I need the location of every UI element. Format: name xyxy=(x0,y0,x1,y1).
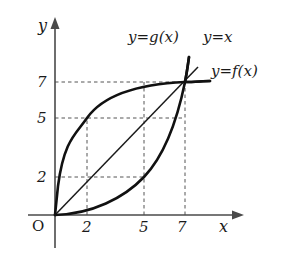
x-tick-2: 2 xyxy=(82,220,92,235)
x-axis-label: x xyxy=(219,219,228,235)
curve-g-upper-branch xyxy=(185,57,189,82)
y-axis-label: y xyxy=(38,18,47,34)
curve-label-f: y=f(x) xyxy=(211,64,258,79)
curve-f-right-branch xyxy=(185,81,210,82)
origin-label: O xyxy=(32,219,44,234)
x-axis-arrowhead xyxy=(232,211,244,220)
y-axis-arrowhead xyxy=(51,17,60,29)
curve-label-g: y=g(x) xyxy=(128,30,179,45)
curve-g xyxy=(55,81,210,215)
x-tick-7: 7 xyxy=(177,220,187,235)
math-figure: y x O 2 5 7 2 5 7 y=g(x) y=x y=f(x) xyxy=(0,0,291,258)
y-tick-7: 7 xyxy=(37,75,47,90)
y-tick-2: 2 xyxy=(37,170,47,185)
x-tick-5: 5 xyxy=(139,220,149,235)
curve-label-identity: y=x xyxy=(203,30,233,45)
y-tick-5: 5 xyxy=(37,111,47,126)
